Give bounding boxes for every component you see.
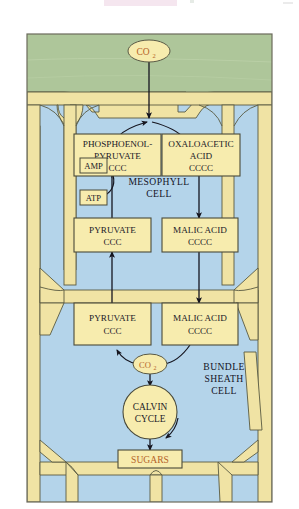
co2-bundle-subscript: 2 (154, 365, 157, 371)
wall-left-interior-stem (64, 105, 76, 285)
oaa-formula: CCCC (189, 163, 213, 173)
node-co2-bundle-sheath: CO 2 (133, 354, 167, 374)
node-malic-acid-mesophyll: MALIC ACID CCCC (162, 218, 238, 252)
bundle-sheath-line1: BUNDLE (203, 361, 244, 372)
co2-top-label: CO (136, 47, 149, 57)
wall-middle-horizontal (40, 290, 258, 303)
mesophyll-line2: CELL (146, 188, 172, 199)
node-atp: ATP (80, 190, 107, 205)
node-amp: AMP (80, 158, 107, 173)
oaa-line1: OXALOACETIC (168, 139, 233, 149)
sugars-label: SUGARS (131, 454, 169, 465)
malic-meso-line1: MALIC ACID (173, 225, 227, 235)
node-malic-acid-bundle-sheath: MALIC ACID CCCC (162, 303, 238, 345)
wall-right-interior-stem (222, 105, 234, 285)
calvin-line1: CALVIN (133, 402, 168, 412)
pep-formula: CCC (108, 163, 126, 173)
atp-label: ATP (86, 193, 102, 203)
c4-photosynthesis-diagram: CO 2 PHOSPHOENOL- PYRUVATE CCC OXALOACET… (0, 0, 299, 509)
wall-left-edge (27, 105, 40, 502)
pyruvate-meso-formula: CCC (103, 237, 121, 247)
oaa-line2: ACID (190, 151, 213, 161)
bundle-sheath-line3: CELL (211, 385, 237, 396)
node-pyruvate-bundle-sheath: PYRUVATE CCC (74, 303, 151, 345)
pep-line1: PHOSPHOENOL- (83, 139, 152, 149)
illustration-body: CO 2 PHOSPHOENOL- PYRUVATE CCC OXALOACET… (27, 34, 272, 502)
pyruvate-meso-line1: PYRUVATE (89, 225, 136, 235)
malic-meso-formula: CCCC (188, 237, 212, 247)
wall-bottom-mid-stem (150, 475, 162, 502)
co2-top-subscript: 2 (152, 52, 155, 59)
wall-right-edge (258, 105, 272, 502)
malic-bundle-line1: MALIC ACID (173, 313, 227, 323)
pyruvate-bundle-formula: CCC (103, 326, 121, 336)
node-sugars: SUGARS (118, 450, 182, 468)
co2-bundle-label: CO (139, 360, 151, 370)
amp-label: AMP (84, 161, 103, 171)
malic-bundle-formula: CCCC (188, 326, 212, 336)
node-pyruvate-mesophyll: PYRUVATE CCC (74, 218, 151, 252)
bundle-sheath-line2: SHEATH (204, 373, 243, 384)
node-calvin-cycle: CALVIN CYCLE (123, 385, 177, 439)
calvin-line2: CYCLE (135, 414, 166, 424)
node-co2-top: CO 2 (128, 40, 170, 62)
node-oxaloacetic-acid: OXALOACETIC ACID CCCC (162, 134, 240, 176)
pyruvate-bundle-line1: PYRUVATE (89, 313, 136, 323)
mesophyll-line1: MESOPHYLL (128, 176, 189, 187)
